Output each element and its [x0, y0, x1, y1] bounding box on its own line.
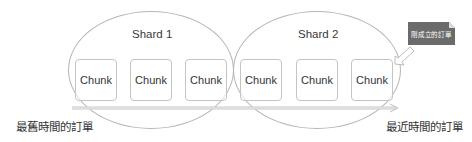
callout-pointer-arrow-icon — [0, 0, 472, 142]
callout-text: 剛成立的訂單 — [408, 22, 455, 45]
new-orders-callout: 剛成立的訂單 — [408, 22, 455, 45]
